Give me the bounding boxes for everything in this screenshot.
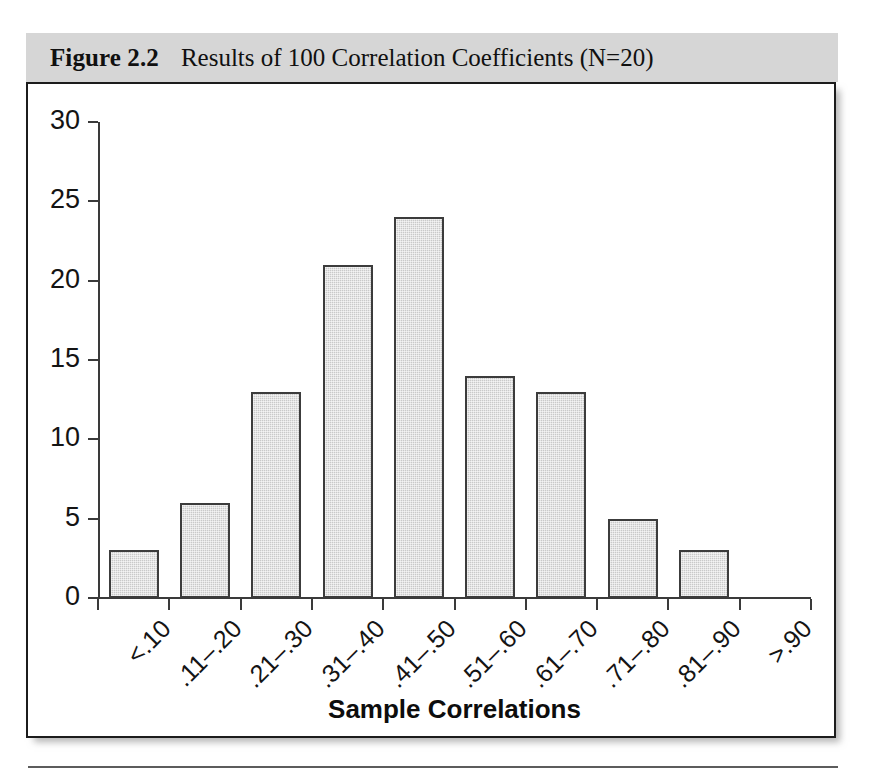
- x-axis-title: Sample Correlations: [98, 694, 811, 725]
- figure-2-2: Figure 2.2 Results of 100 Correlation Co…: [0, 0, 871, 781]
- bottom-rule: [28, 766, 838, 768]
- figure-caption-band: Figure 2.2 Results of 100 Correlation Co…: [26, 33, 838, 82]
- figure-caption-text: Results of 100 Correlation Coefficients …: [181, 44, 654, 72]
- figure-caption-label: Figure 2.2: [50, 44, 159, 72]
- plot-frame: [26, 82, 836, 738]
